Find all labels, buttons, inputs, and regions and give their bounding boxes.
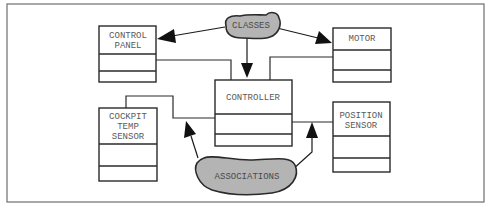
class-name: SENSOR bbox=[112, 132, 145, 142]
pointer-to-cockpit-association bbox=[191, 136, 198, 158]
arrowhead-icon bbox=[306, 122, 318, 138]
class-name: SENSOR bbox=[345, 121, 378, 131]
class-name: TEMP bbox=[117, 122, 139, 132]
class-box-position-sensor[interactable]: POSITION SENSOR bbox=[333, 102, 390, 172]
class-diagram: CONTROL PANEL MOTOR CONTROLLER COCKPIT T… bbox=[0, 0, 486, 208]
classes-label: CLASSES bbox=[232, 21, 270, 31]
pointer-to-motor bbox=[277, 28, 318, 38]
class-name: POSITION bbox=[339, 111, 382, 121]
arrowhead-icon bbox=[315, 31, 332, 44]
class-name: PANEL bbox=[114, 41, 141, 51]
association-control-panel-controller bbox=[156, 60, 231, 80]
class-box-control-panel[interactable]: CONTROL PANEL bbox=[99, 26, 156, 82]
association-motor-controller bbox=[270, 57, 333, 80]
associations-callout: ASSOCIATIONS bbox=[196, 157, 297, 195]
arrowhead-icon bbox=[157, 29, 176, 43]
arrowhead-icon bbox=[184, 121, 196, 138]
class-box-cockpit-temp-sensor[interactable]: COCKPIT TEMP SENSOR bbox=[99, 108, 157, 181]
associations-label: ASSOCIATIONS bbox=[215, 172, 280, 182]
pointer-to-control-panel bbox=[172, 27, 225, 36]
arrowhead-icon bbox=[241, 63, 253, 78]
classes-callout: CLASSES bbox=[226, 13, 281, 39]
class-name: MOTOR bbox=[348, 34, 376, 44]
class-name: COCKPIT bbox=[109, 112, 147, 122]
class-box-motor[interactable]: MOTOR bbox=[333, 28, 391, 82]
class-box-controller[interactable]: CONTROLLER bbox=[215, 80, 292, 146]
class-name: CONTROL bbox=[109, 31, 147, 41]
class-name: CONTROLLER bbox=[226, 93, 281, 103]
